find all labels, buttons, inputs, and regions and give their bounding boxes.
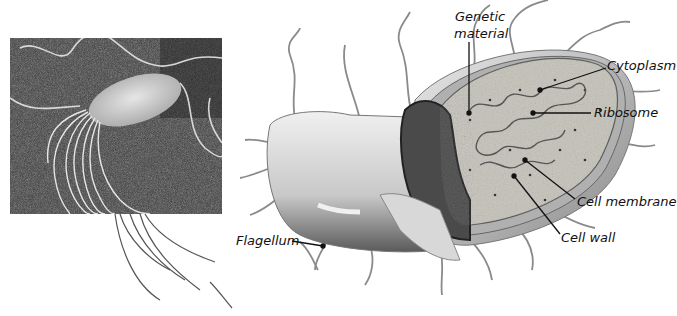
label-cell-membrane: Cell membrane [577,194,677,209]
label-flagellum: Flagellum [236,233,299,248]
label-cytoplasm: Cytoplasm [607,58,676,73]
label-genetic-material-line1: Genetic [455,9,505,24]
label-cell-wall: Cell wall [561,230,615,245]
label-ribosome: Ribosome [594,105,658,120]
photo-flagella-tail [115,214,232,308]
label-genetic-material-line2: material [454,26,508,41]
